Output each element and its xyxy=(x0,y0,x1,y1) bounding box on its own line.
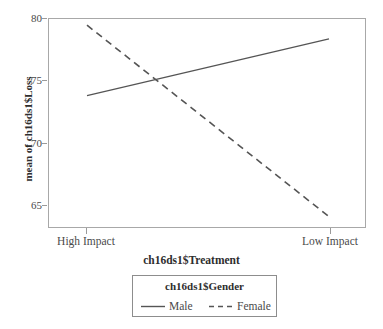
y-axis-title: mean of ch16ds1$Loss xyxy=(22,49,34,209)
plot-area-svg xyxy=(49,19,367,229)
x-tick-label-low-impact: Low Impact xyxy=(278,234,382,248)
interaction-plot-figure: 80 75 70 65 mean of ch16ds1$Loss High Im… xyxy=(0,0,383,329)
series-line-female xyxy=(87,25,329,216)
dashed-line-icon xyxy=(209,305,233,307)
y-tick-mark-70 xyxy=(42,143,47,144)
series-line-male xyxy=(87,39,329,96)
x-axis-title: ch16ds1$Treatment xyxy=(0,254,383,266)
plot-panel xyxy=(48,18,366,228)
legend-entries: Male Female xyxy=(133,298,276,316)
y-tick-mark-75 xyxy=(42,80,47,81)
y-tick-mark-80 xyxy=(42,18,47,19)
y-tick-mark-65 xyxy=(42,205,47,206)
solid-line-icon xyxy=(141,305,165,307)
legend-label-male: Male xyxy=(169,298,193,314)
x-tick-label-high-impact: High Impact xyxy=(31,234,141,248)
legend-title: ch16ds1$Gender xyxy=(133,280,276,292)
y-tick-label-80: 80 xyxy=(31,13,42,24)
legend: ch16ds1$Gender Male Female xyxy=(132,275,277,317)
legend-label-female: Female xyxy=(237,298,271,314)
